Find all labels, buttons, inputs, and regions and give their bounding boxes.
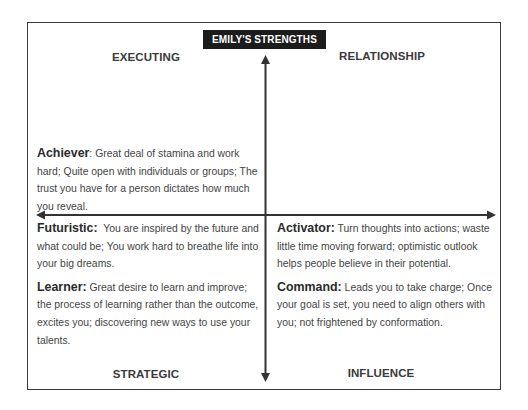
arrow-down-icon [261, 373, 270, 382]
quadrant-label-executing: EXECUTING [112, 51, 180, 63]
strength-term: Command: [277, 280, 342, 294]
strength-learner: Learner: Great desire to learn and impro… [37, 279, 261, 349]
strength-term: Achiever [37, 146, 89, 160]
quadrant-label-influence: INFLUENCE [348, 367, 415, 379]
strength-term: Learner: [37, 280, 87, 294]
quadrant-label-relationship: RELATIONSHIP [339, 50, 425, 62]
arrow-up-icon [261, 55, 270, 64]
strength-command: Command: Leads you to take charge; Once … [277, 279, 501, 332]
strength-term: Activator: [277, 221, 335, 235]
quadrant-label-strategic: STRATEGIC [113, 368, 180, 380]
diagram-title: EMILY'S STRENGTHS [203, 30, 326, 49]
strength-activator: Activator: Turn thoughts into actions; w… [277, 220, 501, 273]
arrow-right-icon [487, 211, 496, 220]
strength-achiever: Achiever: Great deal of stamina and work… [37, 145, 261, 215]
strength-futuristic: Futuristic: You are inspired by the futu… [37, 220, 261, 273]
influence-strengths: Activator: Turn thoughts into actions; w… [277, 220, 501, 332]
strategic-strengths: Futuristic: You are inspired by the futu… [37, 220, 261, 349]
strength-term: Futuristic: [37, 221, 98, 235]
